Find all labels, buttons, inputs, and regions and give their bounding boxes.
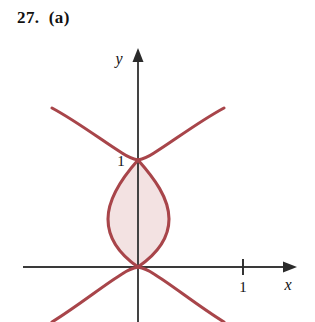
x-axis-tick-label-1: 1 — [239, 279, 247, 295]
x-axis-label: x — [283, 276, 291, 293]
y-axis-label: y — [113, 50, 123, 68]
x-axis-arrowhead — [283, 262, 297, 273]
figure-container: 27. (a) y x 1 1 — [0, 0, 315, 322]
y-axis-arrowhead — [133, 48, 144, 62]
plot-canvas: y x 1 1 — [0, 0, 315, 322]
y-axis-tick-label-1: 1 — [117, 153, 125, 169]
